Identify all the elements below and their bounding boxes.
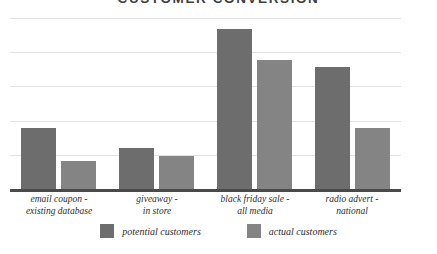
bar-chart: CUSTOMER CONVERSION email coupon -existi…	[0, 0, 437, 254]
plot-area	[10, 18, 401, 190]
category-label-line: existing database	[10, 206, 108, 218]
category-label: giveaway -in store	[108, 194, 206, 217]
legend-item[interactable]: actual customers	[247, 224, 337, 238]
category-label: email coupon -existing database	[10, 194, 108, 217]
legend-swatch-icon	[100, 224, 114, 238]
bar-potential	[21, 128, 56, 190]
legend-item[interactable]: potential customers	[100, 224, 201, 238]
category-label-line: in store	[108, 206, 206, 218]
category-label: black friday sale -all media	[206, 194, 304, 217]
category-label-line: giveaway -	[108, 194, 206, 206]
bar-actual	[61, 161, 96, 190]
bar-actual	[355, 128, 390, 190]
legend-swatch-icon	[247, 224, 261, 238]
category-label-line: email coupon -	[10, 194, 108, 206]
bar-actual	[159, 156, 194, 190]
category-label-line: all media	[206, 206, 304, 218]
bar-potential	[315, 67, 350, 190]
chart-title: CUSTOMER CONVERSION	[0, 0, 437, 6]
bar-actual	[257, 60, 292, 190]
category-label-line: national	[303, 206, 401, 218]
category-label-line: black friday sale -	[206, 194, 304, 206]
legend-label: actual customers	[269, 226, 337, 237]
category-label-line: radio advert -	[303, 194, 401, 206]
category-label: radio advert -national	[303, 194, 401, 217]
chart-legend: potential customersactual customers	[0, 224, 437, 238]
bar-potential	[217, 29, 252, 190]
x-axis-line	[10, 189, 401, 192]
bar-potential	[119, 148, 154, 190]
gridline	[10, 52, 401, 53]
legend-label: potential customers	[122, 226, 201, 237]
gridline	[10, 18, 401, 19]
